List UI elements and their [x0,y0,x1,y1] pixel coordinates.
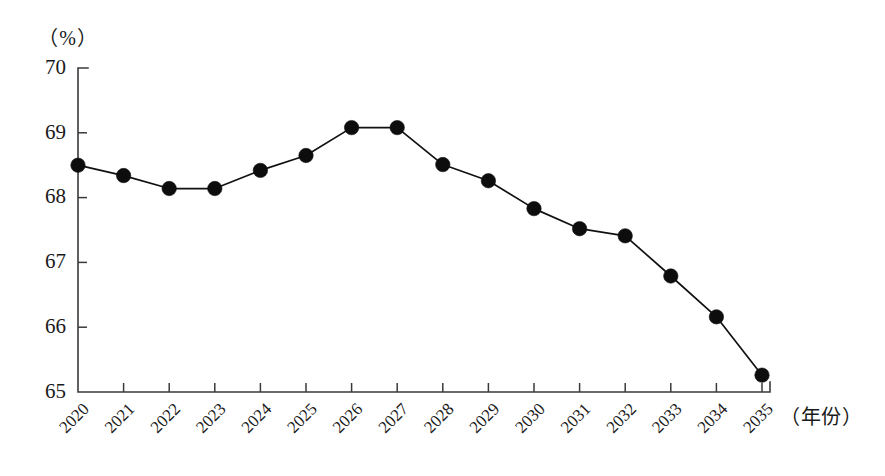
x-tick-label: 2022 [147,399,184,436]
x-tick-label: 2020 [55,399,92,436]
chart-container: 656667686970 202020212022202320242025202… [0,0,885,476]
x-tick-label: 2021 [101,399,138,436]
data-point-marker [162,181,176,195]
data-point-marker [664,269,678,283]
x-tick-label: 2025 [283,399,320,436]
data-markers [71,120,769,382]
x-tick-label: 2029 [466,399,503,436]
x-tick-label: 2024 [238,399,276,437]
data-series [78,128,762,376]
chart-axes [78,68,770,392]
data-point-marker [481,174,495,188]
y-axis-unit-label: （%） [38,27,98,49]
y-tick-label: 70 [45,55,66,79]
data-point-marker [390,120,404,134]
x-tick-label: 2030 [511,399,548,436]
data-point-marker [709,310,723,324]
data-point-marker [299,148,313,162]
y-tick-label: 69 [45,120,66,144]
data-point-marker [755,368,769,382]
data-point-marker [253,163,267,177]
x-tick-label: 2023 [192,399,229,436]
data-point-marker [116,168,130,182]
x-axis-unit-label: （年份） [780,406,862,428]
data-point-marker [618,229,632,243]
data-point-marker [436,157,450,171]
x-tick-label: 2026 [329,399,366,436]
x-tick-label: 2032 [603,399,640,436]
y-tick-label: 67 [45,249,66,273]
data-point-marker [527,201,541,215]
y-tick-label: 66 [45,314,66,338]
line-chart: 656667686970 202020212022202320242025202… [0,0,885,476]
axis-frame [78,68,770,392]
data-point-marker [71,158,85,172]
x-axis-ticks [124,383,762,392]
x-tick-label: 2033 [648,399,685,436]
data-point-marker [208,181,222,195]
y-tick-label: 68 [45,184,66,208]
x-tick-label: 2027 [375,399,413,437]
x-tick-label: 2035 [739,399,776,436]
series-line-path [78,128,762,376]
x-axis-tick-labels: 2020202120222023202420252026202720282029… [55,399,776,437]
x-tick-label: 2031 [557,399,594,436]
data-point-marker [344,120,358,134]
y-tick-label: 65 [45,379,66,403]
x-tick-label: 2034 [694,399,732,437]
y-axis-tick-labels: 656667686970 [45,55,66,403]
x-tick-label: 2028 [420,399,457,436]
data-point-marker [572,222,586,236]
